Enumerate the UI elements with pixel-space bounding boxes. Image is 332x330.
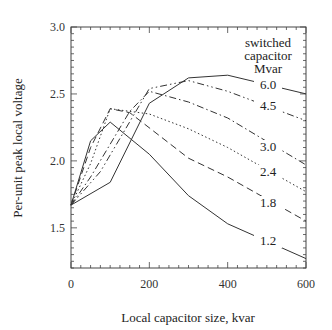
chart: 0200400600 1.52.02.53.0 6.04.53.02.41.81… (0, 0, 332, 330)
x-axis-title: Local capacitor size, kvar (121, 310, 255, 325)
legend-title-line: Mvar (254, 61, 283, 76)
y-tick-label: 2.0 (50, 154, 65, 168)
legend: switchedcapacitorMvar (244, 35, 292, 76)
series-label: 3.0 (260, 139, 276, 154)
x-tick-label: 600 (297, 277, 315, 291)
series-label: 6.0 (260, 77, 276, 92)
series-label: 4.5 (260, 98, 276, 113)
x-tick-label: 200 (140, 277, 158, 291)
x-tick-label: 0 (68, 277, 74, 291)
x-tick-label: 400 (219, 277, 237, 291)
series-label: 2.4 (260, 164, 277, 179)
y-tick-label: 3.0 (50, 20, 65, 34)
y-tick-label: 2.5 (50, 87, 65, 101)
y-tick-label: 1.5 (50, 221, 65, 235)
series-label: 1.8 (260, 195, 276, 210)
series-label: 1.2 (260, 233, 276, 248)
series-line-2-4 (71, 109, 306, 205)
plot-lines: 6.04.53.02.41.81.2 (71, 75, 306, 258)
y-axis-title: Per-unit peak local voltage (10, 78, 25, 218)
